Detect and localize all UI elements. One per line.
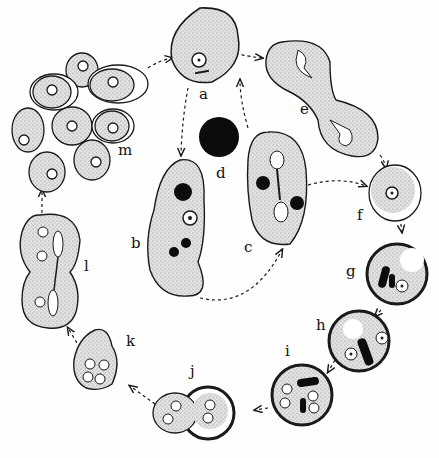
stage-i-cyst [272,365,332,425]
stage-b-cell [148,160,205,296]
label-i: i [285,344,290,359]
stage-k-cell [74,329,117,389]
stage-g-cyst [367,244,427,304]
label-d: d [216,166,226,181]
label-l: l [84,259,89,274]
label-a: a [199,87,208,102]
stage-j-cells [153,387,234,439]
stage-l-cell [20,214,80,328]
stage-m-cells [12,53,148,192]
stage-h-cyst [329,311,389,371]
label-k: k [126,334,135,349]
stage-d-body [199,117,239,157]
label-c: c [244,240,252,255]
label-b: b [131,236,141,251]
life-cycle-diagram: a b c d e f g h i j k l m [0,0,439,458]
label-e: e [300,102,309,117]
label-f: f [357,208,363,223]
label-j: j [190,364,195,379]
stage-f-cell [369,165,421,221]
stage-a-cell [171,8,239,83]
label-h: h [316,318,326,333]
stage-c-cell [248,132,307,245]
label-g: g [346,264,356,279]
label-m: m [118,143,132,158]
diagram-graphics [0,0,439,458]
